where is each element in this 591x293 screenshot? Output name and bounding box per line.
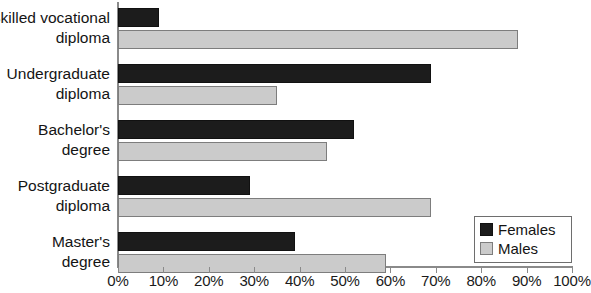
category-label-line: diploma — [0, 196, 110, 216]
category-label-line: Bachelor's — [0, 120, 110, 140]
category-label: Bachelor'sdegree — [0, 120, 110, 159]
bar-females — [118, 120, 354, 139]
bar-chart: Skilled vocationaldiplomaUndergraduatedi… — [0, 0, 591, 293]
category-label-line: Undergraduate — [0, 64, 110, 84]
legend-item-males: Males — [480, 239, 566, 258]
bar-females — [118, 176, 250, 195]
x-tick-label: 30% — [239, 272, 268, 289]
bar-males — [118, 30, 518, 49]
x-tick-label: 50% — [330, 272, 359, 289]
black-square-swatch — [480, 223, 493, 236]
category-label: Undergraduatediploma — [0, 64, 110, 103]
bar-males — [118, 86, 277, 105]
bar-females — [118, 8, 159, 27]
legend-label-females: Females — [498, 221, 556, 238]
gray-square-swatch — [480, 242, 493, 255]
x-tick-label: 40% — [285, 272, 314, 289]
category-label-line: degree — [0, 252, 110, 272]
x-tick-label: 90% — [512, 272, 541, 289]
category-label-line: Postgraduate — [0, 176, 110, 196]
x-tick-label: 20% — [194, 272, 223, 289]
category-label-line: Master's — [0, 232, 110, 252]
x-tick-label: 100% — [553, 272, 591, 289]
bar-males — [118, 198, 431, 217]
chart-legend: Females Males — [474, 216, 572, 263]
category-label-line: degree — [0, 140, 110, 160]
x-tick-label: 10% — [149, 272, 178, 289]
category-label: Skilled vocationaldiploma — [0, 8, 110, 47]
legend-label-males: Males — [498, 240, 538, 257]
category-label: Postgraduatediploma — [0, 176, 110, 215]
category-label-line: diploma — [0, 28, 110, 48]
x-tick-label: 0% — [107, 272, 128, 289]
legend-item-females: Females — [480, 220, 566, 239]
bar-females — [118, 232, 295, 251]
x-tick-label: 60% — [376, 272, 405, 289]
x-tick-label: 80% — [466, 272, 495, 289]
x-tick-label: 70% — [421, 272, 450, 289]
category-label-line: diploma — [0, 84, 110, 104]
category-label-line: Skilled vocational — [0, 8, 110, 28]
bar-males — [118, 142, 327, 161]
bar-females — [118, 64, 431, 83]
category-label: Master'sdegree — [0, 232, 110, 271]
